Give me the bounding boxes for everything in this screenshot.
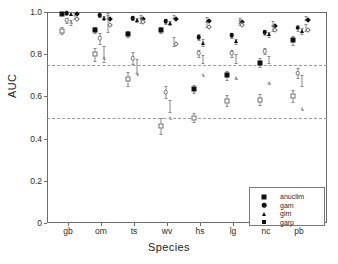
data-point — [93, 52, 98, 57]
error-bar-cap — [292, 90, 295, 91]
y-tick-label: 0.4 — [0, 135, 42, 144]
error-bar-cap — [259, 105, 262, 106]
error-bar-cap — [271, 25, 274, 26]
error-bar-cap — [263, 54, 266, 55]
data-point — [229, 33, 234, 38]
data-point — [159, 123, 164, 128]
data-point — [234, 39, 238, 43]
data-point — [69, 12, 73, 16]
error-bar-cap — [98, 44, 101, 45]
x-tick-mark — [68, 223, 69, 226]
error-bar-cap — [61, 34, 64, 35]
error-bar-cap — [230, 57, 233, 58]
x-tick-mark — [200, 223, 201, 226]
x-tick-mark — [101, 223, 102, 226]
data-point — [126, 32, 131, 37]
y-tick-label: 1.0 — [0, 8, 42, 17]
error-bar-cap — [102, 46, 105, 47]
error-bar-cap — [226, 80, 229, 81]
y-tick-mark — [44, 12, 47, 13]
error-bar-cap — [304, 24, 307, 25]
error-bar-cap — [94, 48, 97, 49]
error-bar-cap — [135, 22, 138, 23]
data-point — [168, 116, 172, 120]
data-point — [225, 73, 230, 78]
y-tick-label: 0 — [0, 219, 42, 228]
error-bar-cap — [205, 22, 208, 23]
error-bar-cap — [69, 25, 72, 26]
error-bar-cap — [164, 98, 167, 99]
y-tick-mark — [44, 54, 47, 55]
error-bar-cap — [102, 62, 105, 63]
y-tick-mark — [44, 96, 47, 97]
x-tick-label: wv — [162, 227, 172, 236]
data-point — [258, 60, 263, 65]
data-point — [102, 56, 106, 60]
y-tick-mark — [44, 139, 47, 140]
data-point — [267, 81, 271, 85]
x-tick-label: om — [95, 227, 107, 236]
x-tick-mark — [167, 223, 168, 226]
error-bar-cap — [172, 37, 175, 38]
legend-item: garp — [250, 218, 324, 227]
error-bar-cap — [160, 118, 163, 119]
error-bar-cap — [234, 63, 237, 64]
error-bar-cap — [238, 20, 241, 21]
data-point — [102, 16, 106, 20]
error-bar-cap — [300, 86, 303, 87]
error-bar-cap — [201, 55, 204, 56]
data-point — [192, 87, 197, 92]
error-bar-cap — [139, 17, 142, 18]
chart-figure: AUC Species 00.20.40.60.81.0 gbomtswvhsl… — [0, 0, 338, 264]
data-point — [97, 36, 102, 41]
error-bar-cap — [168, 100, 171, 101]
error-bar-cap — [193, 93, 196, 94]
x-tick-label: hs — [196, 227, 205, 236]
error-bar-cap — [127, 72, 130, 73]
error-bar-cap — [98, 33, 101, 34]
error-bar-cap — [106, 32, 109, 33]
legend-marker-icon — [262, 220, 266, 224]
error-bar — [169, 100, 170, 113]
error-bar-cap — [168, 25, 171, 26]
error-bar-cap — [94, 33, 97, 34]
error-bar-cap — [168, 112, 171, 113]
error-bar-cap — [296, 78, 299, 79]
data-point — [291, 94, 296, 99]
error-bar-cap — [193, 122, 196, 123]
error-bar-cap — [267, 37, 270, 38]
error-bar-cap — [267, 56, 270, 57]
data-point — [60, 28, 65, 33]
data-point — [69, 20, 73, 24]
error-bar-cap — [197, 57, 200, 58]
error-bar-cap — [160, 134, 163, 135]
legend-marker-icon — [262, 194, 267, 199]
data-point — [168, 21, 172, 25]
x-tick-label: gb — [63, 227, 72, 236]
error-bar-cap — [259, 94, 262, 95]
error-bar-cap — [135, 59, 138, 60]
data-point — [234, 76, 238, 80]
x-tick-mark — [134, 223, 135, 226]
data-point — [258, 97, 263, 102]
error-bar-cap — [73, 15, 76, 16]
error-bar-cap — [300, 34, 303, 35]
error-bar-cap — [234, 44, 237, 45]
reference-line — [47, 65, 327, 66]
error-bar-cap — [300, 75, 303, 76]
y-tick-label: 0.6 — [0, 92, 42, 101]
data-point — [135, 18, 139, 22]
data-point — [300, 107, 304, 111]
error-bar-cap — [160, 33, 163, 34]
x-axis-label: Species — [0, 241, 338, 253]
x-tick-label: ts — [131, 227, 138, 236]
legend-marker-icon — [262, 203, 267, 208]
error-bar-cap — [271, 21, 274, 22]
data-point — [159, 27, 164, 32]
x-tick-label: lg — [230, 227, 237, 236]
error-bar-cap — [94, 61, 97, 62]
error-bar — [235, 54, 236, 62]
error-bar-cap — [292, 102, 295, 103]
data-point — [93, 27, 98, 32]
error-bar — [136, 59, 137, 73]
